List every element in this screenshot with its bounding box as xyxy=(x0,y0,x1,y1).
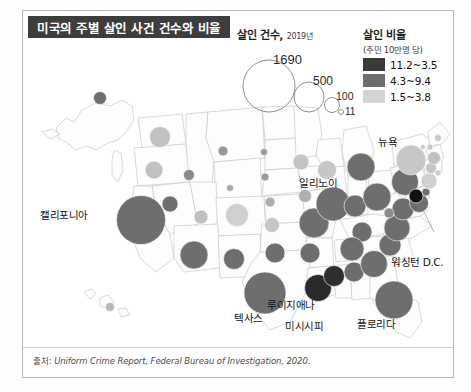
map-bubble xyxy=(421,145,426,150)
source-note: 출처: Uniform Crime Report, Federal Bureau… xyxy=(33,354,310,366)
map-bubble xyxy=(94,92,107,105)
legend-bubble-size: 살인 건수, 2019년 1690 500 100 11 xyxy=(237,26,357,118)
figure-root: 미국의 주별 살인 사건 건수와 비율 살인 건수, 2019년 1690 50… xyxy=(0,0,471,392)
map-bubble xyxy=(265,197,275,207)
map-bubble xyxy=(384,208,394,218)
legend-size-circles: 1690 500 100 11 xyxy=(237,40,357,118)
map-label-texas: 텍사스 xyxy=(234,310,263,325)
legend-color-row-mid: 4.3~9.4 xyxy=(363,74,455,87)
map-bubble xyxy=(340,237,364,261)
map-bubble xyxy=(375,281,413,319)
map-label-mississippi: 미시시피 xyxy=(285,318,323,333)
map-bubble xyxy=(344,195,366,217)
map-bubble xyxy=(421,173,437,189)
legend-color-row-low: 1.5~3.8 xyxy=(363,90,455,103)
map-bubble xyxy=(324,266,345,287)
map-bubble xyxy=(435,170,441,176)
map-bubble xyxy=(150,127,171,148)
map-bubble xyxy=(409,189,423,203)
map-bubble xyxy=(218,146,228,156)
page-title: 미국의 주별 살인 사건 건수와 비율 xyxy=(28,16,230,38)
source-prefix: 출처: xyxy=(33,356,52,366)
map-bubble xyxy=(261,173,269,181)
map-label-illinois: 일리노이 xyxy=(299,175,337,190)
legend-swatch-low xyxy=(363,90,385,103)
map-bubble xyxy=(396,145,426,175)
map-bubble xyxy=(299,190,312,203)
map-label-newyork: 뉴욕 xyxy=(378,134,397,149)
map-bubble xyxy=(265,218,280,233)
map-bubble xyxy=(145,161,163,179)
map-label-florida: 플로리다 xyxy=(357,316,395,331)
legend-size-label-1690: 1690 xyxy=(273,52,302,67)
legend-color-title: 살인 비율 xyxy=(363,26,455,42)
map-bubble xyxy=(184,170,195,181)
legend-circle-11 xyxy=(339,110,344,115)
map-bubble xyxy=(300,243,320,263)
map-bubble xyxy=(106,303,115,312)
source-text: Uniform Crime Report, Federal Bureau of … xyxy=(54,356,310,366)
source-divider xyxy=(23,347,453,348)
map-bubble xyxy=(428,152,441,165)
map-label-california: 캘리포니아 xyxy=(40,207,88,222)
map-bubble xyxy=(293,154,309,170)
legend-size-label-500: 500 xyxy=(313,74,333,88)
legend-size-label-100: 100 xyxy=(336,90,354,102)
legend-label-low: 1.5~3.8 xyxy=(390,91,431,103)
map-label-louisiana: 루이지애나 xyxy=(267,297,315,312)
map-label-washington-dc: 워싱턴 D.C. xyxy=(391,254,443,269)
map-bubble xyxy=(265,243,285,263)
map-bubble xyxy=(227,185,234,192)
legend-color-subtitle: (주민 10만명 당) xyxy=(363,43,455,55)
legend-circle-1690 xyxy=(243,60,295,112)
map-bubble xyxy=(180,241,208,269)
legend-label-mid: 4.3~9.4 xyxy=(390,75,431,87)
legend-color-scale: 살인 비율 (주민 10만명 당) 11.2~3.5 4.3~9.4 1.5~3… xyxy=(363,26,455,103)
legend-swatch-mid xyxy=(363,74,385,87)
map-bubble xyxy=(435,135,442,142)
map-bubble xyxy=(117,196,166,245)
map-bubble xyxy=(194,210,208,224)
legend-size-label-11: 11 xyxy=(345,106,356,117)
legend-swatch-high xyxy=(363,58,385,71)
map-bubble xyxy=(224,249,245,270)
map-bubble xyxy=(347,153,375,181)
map-bubble xyxy=(427,144,433,150)
legend-label-high: 11.2~3.5 xyxy=(390,59,437,71)
legend-color-row-high: 11.2~3.5 xyxy=(363,58,455,71)
map-bubble xyxy=(363,183,391,211)
map-bubble xyxy=(261,149,268,156)
map-bubble xyxy=(162,196,178,212)
map-bubble xyxy=(226,204,249,227)
map-bubble xyxy=(361,251,388,278)
